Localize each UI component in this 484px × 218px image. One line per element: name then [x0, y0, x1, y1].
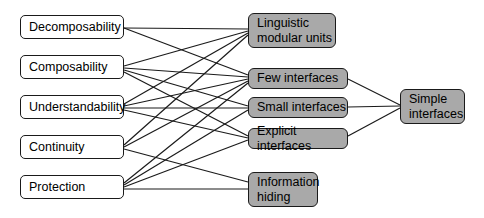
node-label-continuity: Continuity: [29, 140, 85, 155]
node-decomposability: Decomposability: [20, 15, 124, 39]
node-label-linguistic: Linguistic modular units: [257, 16, 332, 46]
edge-explicit-to-simple: [348, 108, 400, 136]
edge-understandability-to-few: [124, 79, 248, 106]
node-label-simple: Simple interfaces: [409, 92, 463, 122]
node-composability: Composability: [20, 55, 124, 79]
node-understandability: Understandability: [20, 95, 124, 119]
node-simple: Simple interfaces: [400, 89, 465, 124]
edge-composability-to-explicit: [124, 72, 248, 136]
edge-composability-to-linguistic: [124, 31, 248, 66]
node-information: Information hiding: [248, 172, 318, 207]
node-label-small: Small interfaces: [257, 100, 346, 115]
edge-few-to-simple: [348, 79, 400, 105]
modularity-diagram: DecomposabilityComposabilityUnderstandab…: [0, 0, 484, 218]
node-label-information: Information hiding: [257, 175, 320, 205]
node-explicit: Explicit interfaces: [248, 128, 348, 149]
node-small: Small interfaces: [248, 97, 348, 118]
node-label-explicit: Explicit interfaces: [257, 124, 347, 154]
edge-continuity-to-information: [124, 149, 248, 182]
node-label-composability: Composability: [29, 60, 108, 75]
edge-small-to-simple: [348, 106, 400, 107]
edge-protection-to-few: [124, 83, 248, 183]
node-linguistic: Linguistic modular units: [248, 13, 336, 48]
node-continuity: Continuity: [20, 135, 124, 159]
node-few: Few interfaces: [248, 68, 348, 89]
node-label-decomposability: Decomposability: [29, 20, 121, 35]
node-label-protection: Protection: [29, 180, 85, 195]
node-label-few: Few interfaces: [257, 71, 338, 86]
node-protection: Protection: [20, 175, 124, 199]
node-label-understandability: Understandability: [29, 100, 126, 115]
edge-decomposability-to-linguistic: [124, 28, 248, 29]
